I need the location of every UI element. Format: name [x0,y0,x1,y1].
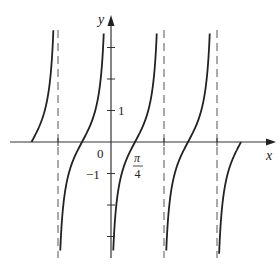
axis-labels: y x 0 1 −1 π 4 [86,12,273,182]
origin-label: 0 [97,146,104,161]
x-axis-arrow-icon [266,139,276,146]
y-axis-label: y [96,12,105,27]
y-tick-label-neg1: −1 [86,167,100,182]
tangent-graph-figure: y x 0 1 −1 π 4 [0,0,279,265]
y-tick-label-1: 1 [118,103,125,118]
x-tick-label-pi-over-4-den: 4 [135,167,141,181]
axes [10,15,276,258]
x-tick-label-pi-over-4-num: π [134,151,141,165]
tangent-branch [219,142,241,254]
tangent-branch [32,30,54,142]
x-axis-label: x [265,148,273,163]
y-axis-arrow-icon [108,15,115,26]
plot-area: y x 0 1 −1 π 4 [0,0,279,265]
